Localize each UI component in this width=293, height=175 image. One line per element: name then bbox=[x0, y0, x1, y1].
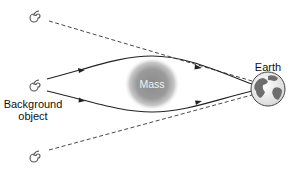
spiral-galaxy-icon bbox=[30, 80, 40, 91]
spiral-galaxy-icon bbox=[30, 11, 40, 22]
gravitational-lensing-diagram: Earth Background object Mass bbox=[0, 0, 293, 175]
background-object-label-line2: object bbox=[2, 110, 64, 122]
mass-label: Mass bbox=[132, 78, 172, 90]
earth-globe-icon bbox=[251, 72, 285, 106]
spiral-galaxy-icon bbox=[30, 151, 40, 162]
background-object-label: Background object bbox=[2, 98, 64, 122]
background-object-label-line1: Background bbox=[2, 98, 64, 110]
earth-label: Earth bbox=[250, 61, 286, 73]
